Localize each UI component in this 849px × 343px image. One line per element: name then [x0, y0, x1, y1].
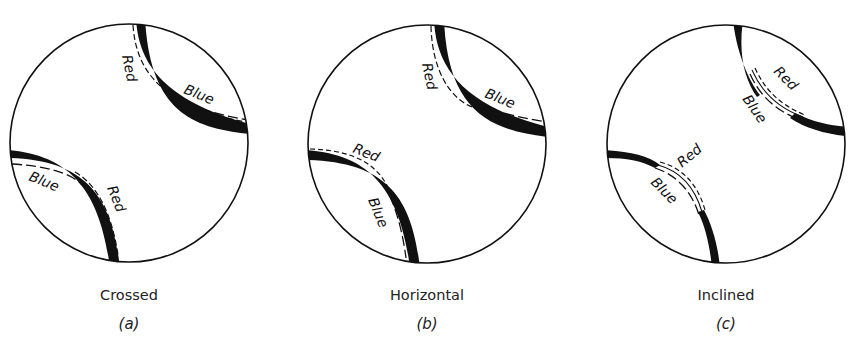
panel-horizontal: Red Blue Red Blue Horizontal (b) — [306, 20, 548, 333]
upper-fringe-band — [434, 20, 548, 137]
label-red-upper: Red — [119, 53, 140, 83]
upper-fringe-band — [733, 20, 760, 97]
lower-fringe-band — [8, 150, 120, 268]
sublabel-b: (b) — [416, 315, 437, 333]
field-of-view-circle — [308, 25, 546, 263]
isogyre-figure: Red Blue Blue Red Crossed (a) Red Blue R… — [0, 0, 849, 343]
lower-fringe-band — [604, 150, 660, 168]
label-red-lower: Red — [674, 140, 705, 170]
caption-horizontal: Horizontal — [390, 287, 464, 303]
sublabel-a: (a) — [119, 315, 140, 333]
panel-crossed: Red Blue Blue Red Crossed (a) — [8, 18, 250, 333]
label-red-lower: Red — [104, 183, 129, 214]
field-of-view-circle — [607, 25, 845, 263]
caption-inclined: Inclined — [698, 287, 755, 303]
sublabel-c: (c) — [716, 315, 736, 333]
label-blue-lower: Blue — [365, 195, 391, 230]
panel-inclined: Red Blue Red Blue Inclined (c) — [604, 20, 846, 333]
label-red-upper: Red — [771, 63, 802, 94]
caption-crossed: Crossed — [100, 287, 158, 303]
upper-fringe-band-lower — [790, 113, 846, 136]
lower-fringe-band-lower — [698, 210, 720, 268]
label-blue-upper: Blue — [740, 92, 771, 127]
label-blue-lower: Blue — [27, 168, 62, 194]
lower-fringe-band — [306, 150, 420, 268]
label-red-lower: Red — [351, 140, 382, 165]
